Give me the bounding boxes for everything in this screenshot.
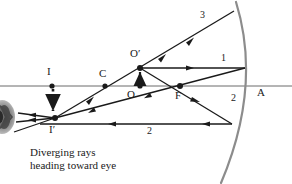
ray-label-2-lower: 2 bbox=[147, 126, 152, 136]
point-label-A: A bbox=[257, 87, 265, 98]
point-label-O: O bbox=[127, 89, 135, 100]
ray-2-reflected-arrowhead bbox=[202, 122, 210, 127]
point-dot-Op bbox=[137, 65, 143, 71]
ray-1-arrowhead bbox=[186, 66, 194, 71]
eye-illustration bbox=[0, 92, 24, 142]
point-label-O-prime: O′ bbox=[130, 48, 140, 59]
ray-2-incident bbox=[140, 68, 232, 124]
diverging-ray-c-arrowhead bbox=[28, 113, 36, 118]
point-label-F: F bbox=[175, 90, 181, 101]
figure-canvas: I I′ C O O′ F A 3 1 2 2 Diverging rays h… bbox=[0, 0, 292, 184]
ray-2-arrowhead bbox=[190, 97, 200, 102]
ray-label-3: 3 bbox=[200, 10, 205, 20]
point-dot-O bbox=[137, 83, 142, 88]
point-label-I-prime: I′ bbox=[49, 124, 55, 135]
point-dot-C bbox=[102, 83, 107, 88]
diverging-ray-b-arrowhead bbox=[28, 118, 36, 123]
ray-2-reflected-arrowhead-2 bbox=[108, 122, 116, 127]
figure-caption: Diverging rays heading toward eye bbox=[30, 146, 116, 172]
ray-label-1: 1 bbox=[221, 53, 226, 63]
point-dot-Ip bbox=[52, 115, 58, 121]
point-label-I: I bbox=[47, 66, 51, 77]
point-label-C: C bbox=[99, 68, 106, 79]
ray-3 bbox=[55, 11, 234, 118]
point-dot-I bbox=[49, 83, 54, 88]
ray-label-2-upper: 2 bbox=[231, 93, 236, 103]
